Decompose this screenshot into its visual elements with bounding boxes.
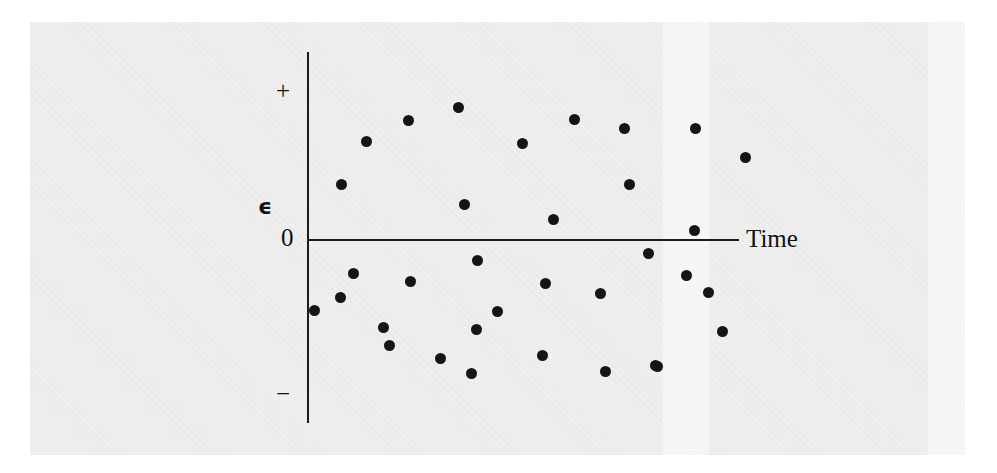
y-axis-positive-label: + <box>276 78 290 103</box>
data-point <box>681 270 692 281</box>
data-point <box>690 123 701 134</box>
data-point <box>624 179 635 190</box>
data-point <box>403 115 414 126</box>
data-point <box>348 268 359 279</box>
data-point <box>537 350 548 361</box>
data-point <box>336 179 347 190</box>
data-point <box>405 276 416 287</box>
data-point <box>740 152 751 163</box>
data-point <box>459 199 470 210</box>
data-point <box>643 248 654 259</box>
data-point <box>717 326 728 337</box>
data-point <box>335 292 346 303</box>
data-point <box>361 136 372 147</box>
y-axis-variable-symbol: ϵ <box>258 196 272 218</box>
scatter-plot: + ϵ 0 − Time <box>0 0 997 473</box>
data-point <box>466 368 477 379</box>
data-point <box>492 306 503 317</box>
y-axis-negative-label: − <box>276 381 290 406</box>
data-point <box>517 138 528 149</box>
y-axis-zero-label: 0 <box>281 225 294 250</box>
data-point <box>569 114 580 125</box>
x-axis-line <box>307 239 739 241</box>
data-point <box>435 353 446 364</box>
y-axis-line <box>307 52 309 423</box>
figure-page: + ϵ 0 − Time <box>0 0 997 473</box>
x-axis-label: Time <box>746 226 798 251</box>
data-point <box>309 305 320 316</box>
data-point <box>600 366 611 377</box>
data-point <box>378 322 389 333</box>
data-point <box>384 340 395 351</box>
data-point <box>471 324 482 335</box>
data-point <box>453 102 464 113</box>
data-point <box>619 123 630 134</box>
data-point <box>595 288 606 299</box>
data-point <box>472 255 483 266</box>
data-point <box>689 225 700 236</box>
data-point <box>540 278 551 289</box>
data-point <box>652 361 663 372</box>
data-point <box>548 214 559 225</box>
data-point <box>703 287 714 298</box>
